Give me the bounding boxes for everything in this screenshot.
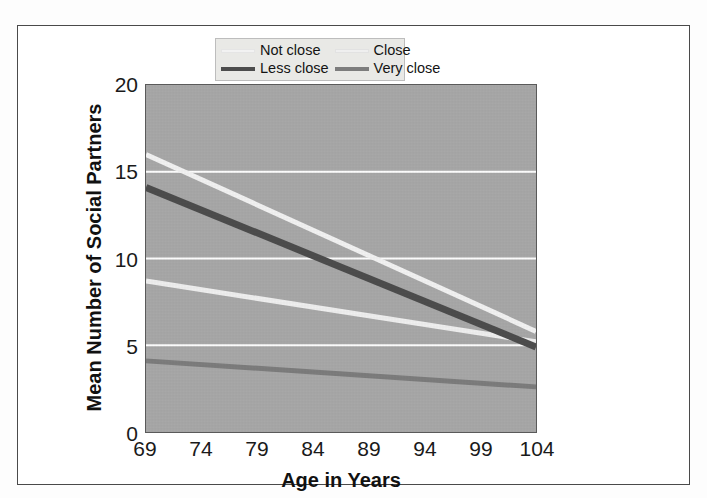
y-tick-20: 20 [94, 74, 138, 95]
y-tick-0: 0 [94, 423, 138, 444]
x-tick-99: 99 [469, 438, 492, 459]
figure-frame: Mean Number of Social Partners 05101520 … [17, 25, 690, 485]
series-line-not-close [146, 154, 536, 331]
legend-label-very-close: Very close [374, 61, 441, 76]
x-axis-tick-labels: 69747984899499104 [145, 438, 537, 468]
x-axis-title: Age in Years [145, 469, 537, 492]
x-tick-84: 84 [301, 438, 324, 459]
legend-label-less-close: Less close [260, 61, 329, 76]
x-tick-94: 94 [413, 438, 436, 459]
legend-entry-very-close: Very close [335, 61, 441, 76]
legend-swatch-not-close [221, 49, 255, 53]
y-tick-5: 5 [94, 335, 138, 356]
plot-svg [146, 85, 536, 432]
legend-swatch-very-close [335, 67, 369, 71]
legend-entry-not-close: Not close [221, 43, 329, 58]
figure-container: Mean Number of Social Partners 05101520 … [0, 0, 707, 498]
gridlines [146, 172, 536, 346]
series-line-close [146, 281, 536, 342]
y-axis-tick-labels: 05101520 [90, 84, 138, 433]
legend: Not close Close Less close Very close [215, 38, 405, 81]
legend-entry-close: Close [335, 43, 441, 58]
x-tick-89: 89 [357, 438, 380, 459]
y-tick-10: 10 [94, 248, 138, 269]
y-tick-15: 15 [94, 161, 138, 182]
data-lines [146, 154, 536, 386]
legend-label-not-close: Not close [260, 43, 320, 58]
series-line-less-close [146, 187, 536, 347]
series-line-very-close [146, 361, 536, 387]
legend-swatch-less-close [221, 67, 255, 71]
x-tick-104: 104 [519, 438, 554, 459]
legend-swatch-close [335, 49, 369, 53]
legend-label-close: Close [374, 43, 411, 58]
x-tick-74: 74 [189, 438, 212, 459]
legend-entry-less-close: Less close [221, 61, 329, 76]
plot-area [145, 84, 537, 433]
x-tick-79: 79 [245, 438, 268, 459]
x-tick-69: 69 [133, 438, 156, 459]
